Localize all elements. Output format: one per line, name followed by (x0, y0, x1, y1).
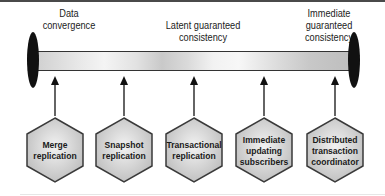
left-end-cap (27, 32, 39, 88)
arrow-up-icon (330, 76, 340, 116)
node-distributed-transaction-coordinator: Distributedtransactioncoordinator (306, 117, 364, 183)
node-snapshot-replication: Snapshotreplication (95, 117, 153, 183)
node-label-line: subscribers (240, 156, 288, 167)
arrow-up-icon (189, 76, 199, 116)
node-label-line: transaction (312, 145, 358, 156)
node-label-line: replication (102, 150, 145, 161)
node-label-line: updating (246, 145, 282, 156)
label-line: Latent guaranteed (152, 20, 253, 32)
bottom-rule (20, 194, 385, 195)
top-rule (0, 0, 385, 2)
node-label-line: Merge (42, 139, 67, 150)
arrow-up-icon (50, 76, 60, 116)
node-label-line: Distributed (312, 134, 357, 145)
label-data-convergence: Data convergence (37, 8, 101, 32)
node-label-line: Immediate (243, 134, 285, 145)
label-line: consistency (152, 32, 253, 44)
replication-spectrum-diagram: Data convergence Latent guaranteed consi… (0, 0, 385, 196)
label-line: Data (37, 8, 101, 20)
label-line: guaranteed (296, 20, 362, 32)
right-end-cap (348, 32, 360, 88)
arrow-up-icon (259, 76, 269, 116)
label-latent-guaranteed-consistency: Latent guaranteed consistency (152, 20, 253, 44)
label-line: convergence (37, 20, 101, 32)
arrow-up-icon (119, 76, 129, 116)
node-label-line: replication (33, 150, 76, 161)
node-label-line: Snapshot (105, 139, 144, 150)
node-merge-replication: Mergereplication (26, 117, 84, 183)
label-line: Immediate (296, 8, 362, 20)
node-label-line: Transactional (166, 139, 221, 150)
node-immediate-updating-subscribers: Immediateupdatingsubscribers (235, 117, 293, 183)
node-transactional-replication: Transactionalreplication (165, 117, 223, 183)
consistency-spectrum-bar (34, 51, 354, 71)
node-label-line: coordinator (311, 156, 359, 167)
node-label-line: replication (172, 150, 215, 161)
